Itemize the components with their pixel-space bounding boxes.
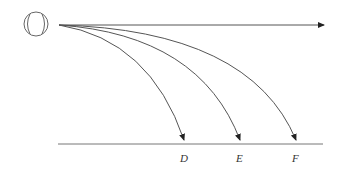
trajectory-d [59,25,184,140]
diagram-svg [0,0,341,174]
label-e: E [236,152,243,164]
trajectory-e [59,25,240,140]
baseball-icon [24,12,48,36]
label-f: F [292,152,299,164]
diagram-canvas: D E F [0,0,341,174]
label-d: D [180,152,188,164]
